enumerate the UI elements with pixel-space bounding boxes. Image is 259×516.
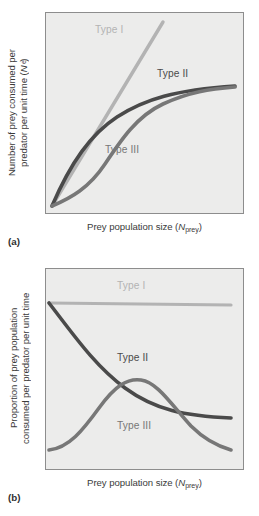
curve-label-type-iii-a: Type III (105, 144, 139, 155)
x-axis-label-a-subscript: prey (185, 226, 199, 234)
x-axis-label-b-subscript: prey (185, 482, 199, 490)
curve-label-type-ii-a: Type II (157, 68, 188, 79)
curve-label-type-iii-b: Type III (117, 420, 151, 431)
curve-label-type-ii-b: Type II (117, 352, 148, 363)
x-axis-label-a-tail: ) (199, 221, 202, 232)
x-axis-label-b: Prey population size (Nprey) (45, 477, 244, 488)
panel-tag-a: (a) (8, 236, 20, 247)
plot-area-b: Type I Type II Type III (45, 268, 244, 470)
panel-tag-b: (b) (8, 492, 21, 503)
curves-svg-a (45, 12, 244, 214)
curves-svg-b (45, 268, 244, 470)
y-axis-label-a: Number of prey consumed per predator per… (6, 14, 32, 212)
y-axis-label-b: Proportion of prey population consumed p… (8, 266, 34, 470)
x-axis-label-a: Prey population size (Nprey) (45, 221, 244, 232)
curve-type-ii-a (52, 86, 235, 206)
x-axis-label-b-tail: ) (199, 477, 202, 488)
figure-panel-b: Proportion of prey population consumed p… (0, 258, 259, 516)
x-axis-label-a-head: Prey population size ( (87, 221, 178, 232)
curve-label-type-i-b: Type I (117, 280, 145, 291)
plot-area-a: Type I Type II Type III (45, 12, 244, 214)
curve-label-type-i-a: Type I (95, 24, 123, 35)
x-axis-label-b-head: Prey population size ( (87, 477, 178, 488)
y-axis-label-a-subscript: e (20, 60, 28, 64)
figure-panel-a: Number of prey consumed per predator per… (0, 0, 259, 258)
y-axis-label-a-variable: N (18, 66, 29, 73)
curve-type-i-b (49, 303, 231, 305)
